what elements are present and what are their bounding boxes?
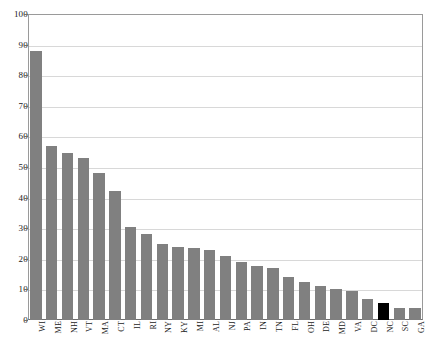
- x-axis-tick-label: NY: [165, 321, 173, 333]
- bar: [362, 299, 373, 320]
- x-axis-tick-label: MA: [102, 321, 110, 334]
- bar: [188, 248, 199, 320]
- x-axis-tick-label-text: WI: [39, 321, 47, 332]
- x-axis-tick-label: MD: [339, 321, 347, 334]
- bar: [78, 158, 89, 320]
- bar: [157, 244, 168, 321]
- bar: [346, 291, 357, 320]
- x-axis-tick-label-text: MD: [339, 321, 347, 334]
- x-axis-tick-label-text: IL: [134, 321, 142, 329]
- x-axis-tick-label: VT: [86, 321, 94, 332]
- bar-highlight: [378, 303, 389, 320]
- bar: [46, 146, 57, 320]
- x-axis-tick-label-text: DC: [371, 321, 379, 333]
- x-axis-tick-label: CT: [118, 321, 126, 332]
- x-axis-tick-label-text: VA: [355, 321, 363, 332]
- x-axis-tick-label: IL: [134, 321, 142, 329]
- x-axis-tick-label-text: AL: [213, 321, 221, 332]
- x-axis-tick-label: KY: [181, 321, 189, 333]
- bar: [220, 256, 231, 320]
- x-axis-tick-label: TN: [276, 321, 284, 332]
- bar: [409, 308, 420, 320]
- x-axis-tick-label: NH: [71, 321, 79, 333]
- bar: [93, 173, 104, 320]
- x-axis-tick-label-text: MI: [197, 321, 205, 331]
- x-axis-tick-label-text: MA: [102, 321, 110, 334]
- x-axis-tick-label-text: OH: [308, 321, 316, 333]
- x-axis-tick-label-text: FL: [292, 321, 300, 331]
- x-axis-tick-label-text: VT: [86, 321, 94, 332]
- x-axis-tick-label: GA: [418, 321, 426, 333]
- x-axis-tick-label-text: GA: [418, 321, 426, 333]
- x-axis-tick-label-text: NJ: [229, 321, 237, 330]
- x-axis-tick-label: MI: [197, 321, 205, 331]
- x-axis-tick-label-text: CT: [118, 321, 126, 332]
- x-axis-tick-label: FL: [292, 321, 300, 331]
- bar: [62, 153, 73, 320]
- x-axis-tick-label: NJ: [229, 321, 237, 330]
- bar: [299, 282, 310, 320]
- bar: [236, 262, 247, 320]
- bar: [283, 277, 294, 320]
- x-axis-tick-label: VA: [355, 321, 363, 332]
- x-axis-tick-label: NC: [387, 321, 395, 333]
- x-axis-tick-label-text: RI: [150, 321, 158, 329]
- bar: [315, 286, 326, 320]
- x-axis-tick-label: DE: [323, 321, 331, 332]
- x-axis-tick-label-text: PA: [244, 321, 252, 331]
- bar: [109, 191, 120, 320]
- bar: [204, 250, 215, 320]
- x-axis-tick-label-text: DE: [323, 321, 331, 332]
- x-axis-tick-label-text: TN: [276, 321, 284, 332]
- x-axis-tick-label-text: ME: [55, 321, 63, 333]
- x-axis-tick-label-text: SC: [402, 321, 410, 331]
- bar: [251, 266, 262, 320]
- x-axis-tick-label-text: NH: [71, 321, 79, 333]
- bar: [141, 234, 152, 320]
- bar: [267, 268, 278, 320]
- x-axis-tick-label: OH: [308, 321, 316, 333]
- x-axis-tick-label: WI: [39, 321, 47, 332]
- x-axis-tick-label: DC: [371, 321, 379, 333]
- x-axis-tick-label-text: IN: [260, 321, 268, 330]
- bars-layer: [28, 14, 423, 320]
- x-axis-tick-label: PA: [244, 321, 252, 331]
- x-axis-tick-label: SC: [402, 321, 410, 331]
- x-axis-tick-label: RI: [150, 321, 158, 329]
- x-axis-tick-label: IN: [260, 321, 268, 330]
- bar: [125, 227, 136, 320]
- bar: [172, 247, 183, 320]
- bar: [394, 308, 405, 320]
- x-axis-tick-label-text: KY: [181, 321, 189, 333]
- bar: [30, 51, 41, 320]
- x-axis-tick-label: ME: [55, 321, 63, 333]
- x-axis-tick-label-text: NY: [165, 321, 173, 333]
- bar: [330, 289, 341, 320]
- x-axis-labels: WIMENHVTMACTILRINYKYMIALNJPAINTNFLOHDEMD…: [28, 321, 423, 351]
- y-axis: 0102030405060708090100: [0, 0, 28, 351]
- x-axis-tick-label: AL: [213, 321, 221, 332]
- x-axis-tick-label-text: NC: [387, 321, 395, 333]
- bar-chart: 0102030405060708090100 WIMENHVTMACTILRIN…: [0, 0, 441, 351]
